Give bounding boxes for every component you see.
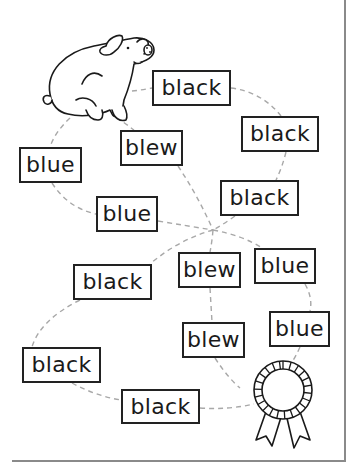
word-box-blue-1[interactable]: blue — [19, 147, 82, 183]
word-box-blue-2[interactable]: blue — [96, 196, 158, 232]
word-box-black-2[interactable]: black — [241, 116, 319, 152]
word-box-blue-4[interactable]: blue — [269, 311, 330, 347]
word-box-black-1[interactable]: black — [152, 70, 231, 106]
award-ribbon-icon — [248, 356, 320, 452]
word-box-blew-2[interactable]: blew — [178, 252, 241, 288]
page-border-bottom — [12, 460, 346, 462]
word-box-black-4[interactable]: black — [73, 264, 152, 300]
word-box-black-6[interactable]: black — [121, 389, 200, 424]
word-box-blew-3[interactable]: blew — [182, 322, 245, 358]
pig-icon — [36, 26, 160, 126]
page-border-right — [344, 0, 346, 462]
word-box-blue-3[interactable]: blue — [254, 248, 316, 284]
word-box-black-3[interactable]: black — [220, 180, 299, 216]
word-box-black-5[interactable]: black — [22, 347, 101, 383]
worksheet-page: black black blew blue black blue black b… — [0, 0, 350, 468]
word-box-blew-1[interactable]: blew — [120, 130, 183, 166]
